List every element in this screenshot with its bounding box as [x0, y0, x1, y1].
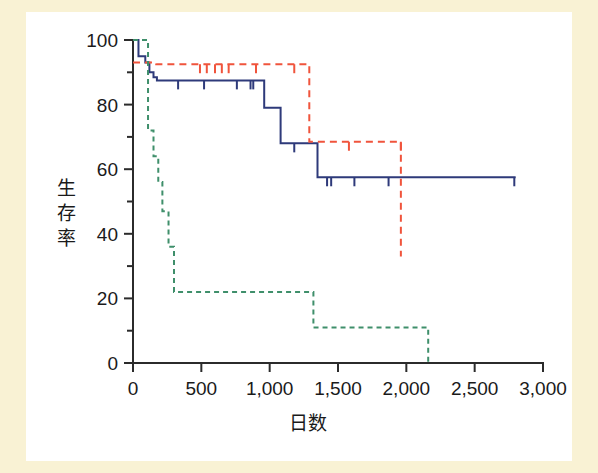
y-tick-label: 100 — [86, 30, 118, 51]
curves — [133, 40, 516, 363]
y-axis-title-char: 生 — [57, 177, 76, 199]
axis-lines — [133, 40, 543, 363]
figure-root: 02040608010005001,0001,5002,0002,5003,00… — [0, 0, 598, 473]
x-tick-label: 500 — [185, 378, 217, 399]
y-tick-label: 20 — [97, 288, 118, 309]
x-tick-label: 0 — [128, 378, 139, 399]
plot-canvas: 02040608010005001,0001,5002,0002,5003,00… — [26, 12, 572, 461]
y-tick-label: 0 — [107, 353, 118, 374]
curve-red-curve — [133, 63, 401, 257]
x-tick-label: 1,500 — [314, 378, 362, 399]
x-tick-label: 2,000 — [383, 378, 431, 399]
x-tick-label: 3,000 — [519, 378, 567, 399]
y-axis-title-char: 存 — [57, 202, 76, 224]
y-tick-label: 60 — [97, 159, 118, 180]
axes — [124, 40, 543, 372]
y-tick-label: 40 — [97, 224, 118, 245]
y-tick-label: 80 — [97, 95, 118, 116]
curve-blue-curve — [133, 40, 516, 177]
x-tick-label: 2,500 — [451, 378, 499, 399]
x-tick-label: 1,000 — [246, 378, 294, 399]
y-axis-title-char: 率 — [57, 227, 76, 249]
survival-chart: 02040608010005001,0001,5002,0002,5003,00… — [26, 12, 572, 461]
x-axis-title: 日数 — [289, 412, 327, 434]
